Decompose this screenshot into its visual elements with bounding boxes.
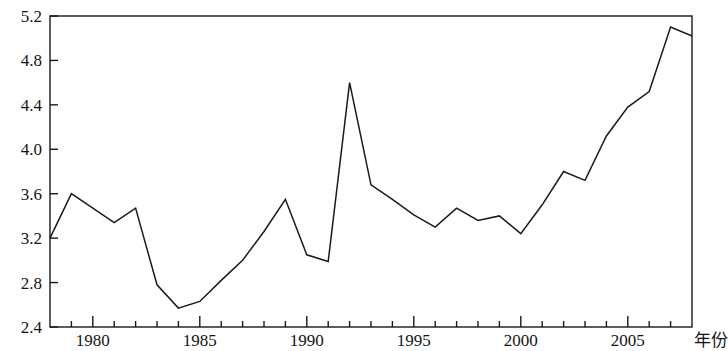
x-tick-label: 1990 xyxy=(272,332,342,349)
y-tick-label: 5.2 xyxy=(0,8,42,25)
y-tick-label: 3.6 xyxy=(0,186,42,203)
y-tick-label: 4.8 xyxy=(0,52,42,69)
x-tick-label: 1995 xyxy=(379,332,449,349)
x-tick-label: 2000 xyxy=(486,332,556,349)
x-tick-label: 1985 xyxy=(165,332,235,349)
x-tick-label: 1980 xyxy=(58,332,128,349)
data-series-line xyxy=(50,27,692,308)
x-tick-label: 2005 xyxy=(593,332,663,349)
plot-frame xyxy=(50,16,692,327)
x-axis-title: 年份 xyxy=(694,332,728,349)
y-axis-ticks xyxy=(50,16,58,327)
plot-border xyxy=(50,16,692,327)
y-tick-label: 4.0 xyxy=(0,141,42,158)
y-tick-label: 4.4 xyxy=(0,97,42,114)
y-tick-label: 2.8 xyxy=(0,275,42,292)
y-tick-label: 2.4 xyxy=(0,319,42,336)
y-tick-label: 3.2 xyxy=(0,230,42,247)
x-axis-ticks xyxy=(71,316,670,327)
